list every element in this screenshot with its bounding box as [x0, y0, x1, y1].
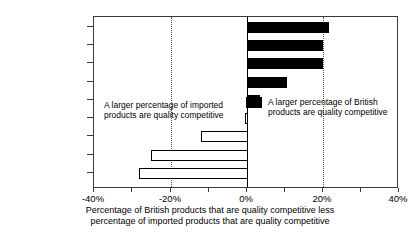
ytick-bicycles — [87, 81, 93, 82]
bar-fridges-freezers — [151, 150, 248, 161]
legend-swatch-british — [246, 97, 262, 108]
annotation-british-note: A larger percentage of British products … — [268, 97, 388, 117]
bar-hand-saws — [139, 168, 248, 179]
xtick-mark-minus-30 — [131, 188, 132, 192]
xtick-mark-plus-40 — [398, 188, 399, 192]
annotation-british-line2: products are quality competitive — [268, 107, 388, 117]
xtick-mark-minus-10 — [208, 188, 209, 192]
x-axis-caption-line2: percentage of imported products that are… — [0, 216, 420, 227]
bar-bicycles — [247, 77, 287, 88]
bar-gas-cookers — [247, 58, 323, 69]
bar-washing-machines — [201, 131, 248, 142]
ytick-gas-cookers — [87, 62, 93, 63]
annotation-imported-note: A larger percentage of imported products… — [104, 100, 224, 120]
ytick-hand-saws — [87, 172, 93, 173]
xtick-mark-plus-10 — [284, 188, 285, 192]
xtick-mark-plus-30 — [360, 188, 361, 192]
xtick-label-minus-20: -20% — [159, 193, 181, 204]
ytick-batteries — [87, 26, 93, 27]
xtick-label-plus-20: 20% — [312, 193, 331, 204]
annotation-imported-line2: products are quality competitive — [104, 110, 224, 120]
ytick-cars — [87, 99, 93, 100]
xtick-mark-zero — [246, 188, 247, 192]
bar-electric-cookers — [247, 40, 323, 51]
ytick-electric-cookers — [87, 44, 93, 45]
ytick-washing-machines — [87, 135, 93, 136]
x-axis-caption: Percentage of British products that are … — [0, 205, 420, 226]
ytick-fridges-freezers — [87, 154, 93, 155]
x-axis-caption-line1: Percentage of British products that are … — [0, 205, 420, 216]
bar-batteries — [247, 22, 329, 33]
xtick-label-minus-40: -40% — [82, 193, 104, 204]
xtick-mark-plus-20 — [322, 188, 323, 192]
xtick-mark-minus-20 — [170, 188, 171, 192]
bar-toasters — [245, 113, 248, 124]
xtick-mark-minus-40 — [93, 188, 94, 192]
ytick-toasters — [87, 117, 93, 118]
xtick-label-plus-40: 40% — [388, 193, 407, 204]
annotation-british-line1: A larger percentage of British — [268, 97, 388, 107]
annotation-imported-line1: A larger percentage of imported — [104, 100, 224, 110]
bar-chart: Batteries Electric cookers Gas cookers B… — [0, 0, 420, 232]
xtick-label-zero: 0% — [239, 193, 253, 204]
